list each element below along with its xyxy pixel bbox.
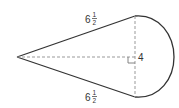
- svg-text:1: 1: [93, 11, 97, 18]
- svg-text:6: 6: [85, 92, 91, 103]
- bottom-slant-side: [17, 57, 135, 97]
- svg-text:6: 6: [85, 14, 91, 25]
- right-angle-marker: [128, 57, 135, 63]
- top-slant-side: [17, 16, 135, 57]
- top-side-label: 6 1 2: [85, 11, 97, 26]
- bottom-side-label: 6 1 2: [85, 89, 97, 104]
- svg-text:2: 2: [93, 97, 97, 104]
- geometry-figure: 6 1 2 6 1 2 4: [0, 0, 179, 108]
- height-label: 4: [138, 52, 144, 63]
- svg-text:1: 1: [93, 89, 97, 96]
- svg-text:2: 2: [93, 19, 97, 26]
